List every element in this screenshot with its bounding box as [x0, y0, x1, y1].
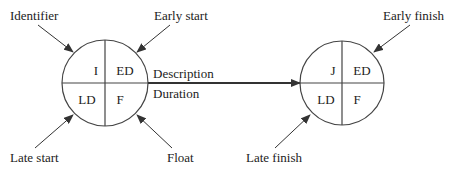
label-late-finish: Late finish [246, 150, 302, 165]
label-early-finish: Early finish [383, 8, 445, 23]
label-identifier: Identifier [10, 8, 59, 23]
end-node-callouts: Early finish Late finish [246, 8, 445, 165]
cell-identifier: I [94, 63, 98, 78]
cell-early-date: ED [116, 63, 133, 78]
cell-late-date: LD [317, 92, 334, 107]
arrow-late-start [35, 115, 73, 148]
cell-float: F [353, 92, 360, 107]
cell-early-date: ED [353, 63, 370, 78]
start-node: I ED LD F [62, 40, 148, 126]
network-diagram: I ED LD F Identifier Early start Late st… [0, 0, 450, 171]
arrow-late-finish [275, 115, 310, 148]
arrow-early-start [137, 25, 170, 52]
label-float: Float [167, 150, 194, 165]
activity-arrow: Description Duration [148, 66, 300, 101]
end-node: J ED LD F [300, 41, 384, 125]
arrow-identifier [38, 25, 73, 52]
cell-float: F [116, 92, 123, 107]
label-late-start: Late start [10, 150, 59, 165]
cell-identifier-j: J [330, 63, 335, 78]
arrow-float [137, 115, 172, 148]
label-description: Description [153, 66, 214, 81]
cell-late-date: LD [78, 92, 95, 107]
arrow-early-finish [374, 25, 410, 52]
label-duration: Duration [153, 86, 200, 101]
label-early-start: Early start [154, 8, 208, 23]
